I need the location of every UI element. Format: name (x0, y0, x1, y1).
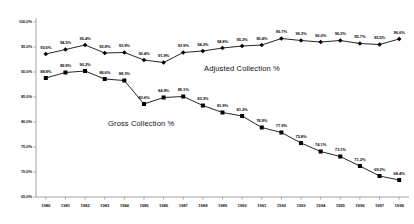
data-point-label: 83.6% (134, 95, 154, 100)
data-point-marker (240, 44, 245, 49)
data-point-label: 68.4% (389, 171, 409, 176)
data-point-label: 91.9% (154, 53, 174, 58)
data-point-marker (240, 114, 244, 118)
data-point-label: 75.8% (291, 134, 311, 139)
data-point-marker (279, 36, 284, 41)
y-axis-tick-label: 85.0% (2, 94, 32, 99)
data-point-label: 95.4% (252, 36, 272, 41)
data-point-label: 93.6% (36, 45, 56, 50)
data-point-marker (122, 50, 127, 55)
x-axis-tick-label: 1998 (388, 203, 410, 208)
data-point-label: 81.2% (232, 107, 252, 112)
data-point-label: 71.2% (350, 157, 370, 162)
data-point-label: 96.6% (389, 30, 409, 35)
data-point-label: 96.7% (271, 29, 291, 34)
y-axis-tick-label: 95.0% (2, 44, 32, 49)
data-point-marker (279, 131, 283, 135)
data-point-marker (299, 141, 303, 145)
series-annotation-adjusted: Adjusted Collection % (204, 64, 280, 73)
series-annotation-gross: Gross Collection % (108, 119, 174, 128)
data-point-label: 83.3% (193, 96, 213, 101)
data-point-label: 88.3% (114, 71, 134, 76)
data-point-label: 78.9% (252, 118, 272, 123)
data-point-label: 73.1% (330, 147, 350, 152)
y-axis-tick-label: 100.0% (2, 19, 32, 24)
data-point-label: 74.1% (311, 142, 331, 147)
data-point-marker (338, 38, 343, 43)
data-point-label: 69.2% (370, 167, 390, 172)
data-point-marker (397, 178, 401, 182)
y-axis-tick-label: 80.0% (2, 119, 32, 124)
data-point-marker (397, 37, 402, 42)
data-point-label: 96.0% (311, 33, 331, 38)
data-point-marker (221, 111, 225, 115)
data-point-label: 92.4% (134, 51, 154, 56)
y-axis-tick-label: 75.0% (2, 144, 32, 149)
data-point-marker (122, 79, 126, 83)
data-point-label: 93.9% (114, 43, 134, 48)
data-point-marker (44, 52, 49, 57)
data-point-marker (181, 50, 186, 55)
data-point-marker (142, 102, 146, 106)
data-point-marker (260, 126, 264, 130)
data-point-label: 77.9% (271, 123, 291, 128)
data-point-label: 81.9% (213, 103, 233, 108)
data-point-marker (319, 150, 323, 154)
data-point-marker (63, 47, 68, 52)
data-point-label: 95.4% (75, 36, 95, 41)
data-point-marker (44, 76, 48, 80)
data-point-marker (161, 60, 166, 65)
data-point-marker (259, 43, 264, 48)
data-point-label: 85.1% (173, 87, 193, 92)
data-point-label: 95.5% (370, 35, 390, 40)
y-axis-tick-label: 90.0% (2, 69, 32, 74)
series-line-gross (46, 71, 399, 180)
line-chart: 100.0%95.0%90.0%85.0%80.0%75.0%70.0%65.0… (0, 0, 414, 224)
data-point-label: 90.2% (75, 62, 95, 67)
data-point-marker (358, 41, 363, 46)
data-point-label: 88.6% (95, 70, 115, 75)
data-point-label: 93.8% (95, 44, 115, 49)
data-point-marker (142, 58, 147, 63)
data-point-label: 84.9% (154, 88, 174, 93)
data-point-marker (83, 69, 87, 73)
data-point-marker (358, 164, 362, 168)
data-point-label: 88.8% (36, 69, 56, 74)
data-point-marker (378, 174, 382, 178)
data-point-marker (201, 104, 205, 108)
data-point-marker (220, 46, 225, 51)
data-point-marker (103, 77, 107, 81)
y-axis-tick-label: 70.0% (2, 169, 32, 174)
data-point-label: 93.9% (173, 43, 193, 48)
data-point-marker (162, 96, 166, 100)
data-point-marker (377, 42, 382, 47)
data-point-label: 89.9% (55, 63, 75, 68)
data-point-marker (83, 43, 88, 48)
data-point-label: 96.3% (330, 31, 350, 36)
data-point-marker (201, 49, 206, 54)
data-point-marker (338, 155, 342, 159)
data-point-label: 94.5% (55, 40, 75, 45)
data-point-label: 94.2% (193, 42, 213, 47)
data-point-label: 95.7% (350, 34, 370, 39)
data-point-label: 96.3% (291, 31, 311, 36)
data-point-label: 95.2% (232, 37, 252, 42)
data-point-marker (299, 38, 304, 43)
data-point-marker (181, 95, 185, 99)
data-point-marker (63, 71, 67, 75)
data-point-label: 94.8% (213, 39, 233, 44)
y-axis-tick-label: 65.0% (2, 194, 32, 199)
data-point-marker (102, 51, 107, 56)
data-point-marker (318, 40, 323, 45)
